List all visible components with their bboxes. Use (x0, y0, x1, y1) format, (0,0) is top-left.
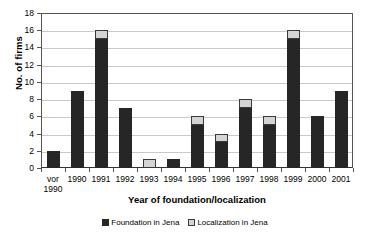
y-axis-tick-label: 10 (14, 77, 34, 87)
bar-group (89, 13, 113, 168)
bar-stack (95, 30, 108, 168)
bar-segment-localization (143, 159, 156, 168)
bar-group (209, 13, 233, 168)
x-axis-tick-label: 1995 (185, 174, 209, 194)
bar-segment-foundation (215, 142, 228, 168)
bar-stack (119, 108, 132, 168)
x-axis-tick-mark (41, 168, 65, 173)
bar-segment-foundation (119, 108, 132, 168)
bar-segment-localization (215, 134, 228, 143)
bar-segment-localization (191, 116, 204, 125)
bar-group (137, 13, 161, 168)
y-axis-tick-label: 2 (14, 146, 34, 156)
chart-legend: Foundation in JenaLocalization in Jena (0, 218, 370, 227)
bar-stack (71, 91, 84, 169)
x-axis-tick-label: 1990 (65, 174, 89, 194)
x-axis-tick-mark (185, 168, 209, 173)
bar-stack (287, 30, 300, 168)
x-axis-tick-label: 1996 (209, 174, 233, 194)
x-axis-tick-label: 1992 (113, 174, 137, 194)
y-axis-tick-label: 16 (14, 25, 34, 35)
x-axis-tick-label: 2000 (305, 174, 329, 194)
x-axis-tick-label: 1994 (161, 174, 185, 194)
x-axis-tick-mark (257, 168, 281, 173)
bar-segment-localization (263, 116, 276, 125)
bar-stack (143, 159, 156, 168)
x-axis-tick-label: 1998 (257, 174, 281, 194)
bar-segment-localization (239, 99, 252, 108)
bar-stack (239, 99, 252, 168)
legend-label: Foundation in Jena (111, 218, 179, 227)
x-axis-tick-mark (209, 168, 233, 173)
legend-item: Foundation in Jena (102, 218, 179, 227)
x-axis-tick-label: 1993 (137, 174, 161, 194)
bar-segment-foundation (287, 39, 300, 168)
x-axis-tick-mark (281, 168, 305, 173)
x-axis-tick-mark (137, 168, 161, 173)
bar-group (329, 13, 353, 168)
y-axis-tick-label: 12 (14, 60, 34, 70)
bar-stack (191, 116, 204, 168)
legend-item: Localization in Jena (188, 218, 267, 227)
bar-stack (167, 159, 180, 168)
bar-segment-foundation (263, 125, 276, 168)
light-square-icon (188, 219, 195, 226)
x-axis-tick-label: 1991 (89, 174, 113, 194)
bar-stack (215, 134, 228, 168)
bar-stack (311, 116, 324, 168)
bar-segment-foundation (167, 159, 180, 168)
bar-group (305, 13, 329, 168)
x-axis-ticks (41, 168, 353, 173)
x-axis-tick-mark (89, 168, 113, 173)
bar-group (185, 13, 209, 168)
y-axis-tick-label: 6 (14, 111, 34, 121)
x-axis-tick-mark (329, 168, 353, 173)
bar-segment-foundation (335, 91, 348, 169)
bar-segment-localization (287, 30, 300, 39)
x-axis-tick-label: 1997 (233, 174, 257, 194)
bar-group (161, 13, 185, 168)
bar-group (65, 13, 89, 168)
bar-segment-foundation (47, 151, 60, 168)
dark-square-icon (102, 219, 109, 226)
bar-group (233, 13, 257, 168)
bar-segment-foundation (71, 91, 84, 169)
bar-segment-foundation (311, 116, 324, 168)
y-axis-tick-label: 0 (14, 163, 34, 173)
bar-group (257, 13, 281, 168)
y-axis-tick-label: 18 (14, 8, 34, 18)
x-axis-tick-mark (233, 168, 257, 173)
bar-chart: No. of firms 024681012141618 vor 1990199… (0, 0, 370, 237)
y-axis-tick-label: 14 (14, 42, 34, 52)
bar-stack (47, 151, 60, 168)
x-axis-title: Year of foundation/localization (41, 194, 353, 205)
x-axis-tick-mark (113, 168, 137, 173)
bar-group (281, 13, 305, 168)
legend-label: Localization in Jena (197, 218, 267, 227)
x-axis-tick-label: 1999 (281, 174, 305, 194)
bar-segment-foundation (191, 125, 204, 168)
x-axis-tick-mark (65, 168, 89, 173)
bar-stack (335, 91, 348, 169)
bar-stack (263, 116, 276, 168)
bar-segment-foundation (239, 108, 252, 168)
x-axis-tick-labels: vor 199019901991199219931994199519961997… (41, 174, 353, 194)
bar-group (113, 13, 137, 168)
y-axis-tick-label: 4 (14, 129, 34, 139)
bar-segment-foundation (95, 39, 108, 168)
bar-series-layer (41, 13, 353, 168)
x-axis-tick-label: vor 1990 (41, 174, 65, 194)
x-axis-tick-mark (161, 168, 185, 173)
bar-group (41, 13, 65, 168)
y-axis-tick-label: 8 (14, 94, 34, 104)
bar-segment-localization (95, 30, 108, 39)
x-axis-tick-label: 2001 (329, 174, 353, 194)
x-axis-tick-mark (305, 168, 329, 173)
